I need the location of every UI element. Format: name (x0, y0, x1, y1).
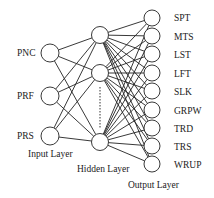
input-label-prf: PRF (17, 92, 34, 102)
hidden-layer-label: Hidden Layer (77, 165, 130, 175)
output-label-lst: LST (174, 51, 191, 61)
edge-hidden-output (108, 145, 145, 161)
output-node (144, 46, 160, 62)
output-label-trs: TRS (174, 143, 191, 153)
hidden-node (92, 134, 109, 151)
edge-hidden-output (108, 20, 144, 32)
output-node (144, 120, 160, 136)
edge-input-hidden (57, 102, 94, 136)
input-node (41, 44, 59, 62)
input-node (41, 127, 59, 145)
edge-hidden-output (108, 35, 144, 36)
output-node (144, 10, 160, 26)
output-node (144, 156, 160, 172)
edge-hidden-output (108, 143, 144, 146)
output-label-wrup: WRUP (174, 161, 201, 171)
input-layer-label: Input Layer (28, 150, 73, 160)
output-label-spt: SPT (174, 14, 190, 24)
output-node (144, 65, 160, 81)
edge-input-hidden (54, 61, 95, 135)
output-label-mts: MTS (174, 33, 194, 43)
output-label-grpw: GRPW (174, 107, 201, 117)
edge-input-hidden (58, 38, 92, 50)
output-node (144, 28, 160, 44)
output-label-trd: TRD (174, 125, 193, 135)
input-label-prs: PRS (17, 132, 34, 142)
output-node (144, 102, 160, 118)
output-layer-label: Output Layer (128, 181, 179, 191)
edge-input-hidden (59, 137, 92, 141)
input-node (41, 87, 59, 105)
hidden-node (92, 65, 109, 82)
input-label-pnc: PNC (17, 49, 35, 59)
hidden-node (92, 27, 109, 44)
edge-hidden-output (108, 130, 144, 140)
output-label-slk: SLK (174, 88, 192, 98)
output-label-lft: LFT (174, 70, 191, 80)
output-node (144, 83, 160, 99)
edge-input-hidden (58, 56, 92, 70)
output-node (144, 138, 160, 154)
